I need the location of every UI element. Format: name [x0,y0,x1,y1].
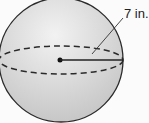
radius-label: 7 in. [124,6,149,21]
